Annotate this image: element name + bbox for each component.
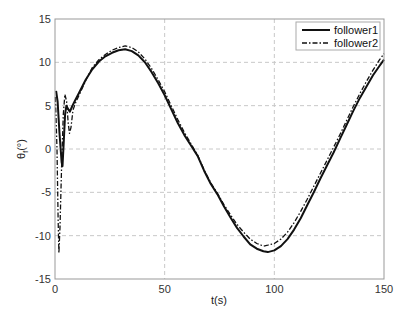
y-tick-label: -15: [35, 273, 51, 285]
x-tick-label: 50: [159, 283, 171, 295]
legend-label-follower1: follower1: [334, 24, 378, 36]
y-tick-label: -5: [41, 186, 51, 198]
x-tick-label: 0: [52, 283, 58, 295]
y-tick-label: 5: [45, 100, 51, 112]
y-tick-label: 0: [45, 143, 51, 155]
x-tick-label: 150: [375, 283, 393, 295]
legend: follower1 follower2: [296, 22, 380, 50]
y-axis-ticks: -15-10-5051015: [35, 13, 51, 285]
y-tick-label: 10: [39, 56, 51, 68]
x-tick-label: 100: [265, 283, 283, 295]
svg-text:θf(°): θf(°): [15, 139, 29, 159]
legend-label-follower2: follower2: [334, 37, 378, 49]
x-axis-label: t(s): [211, 294, 227, 306]
y-tick-label: 15: [39, 13, 51, 25]
y-axis-label: θf(°): [15, 139, 29, 159]
y-tick-label: -10: [35, 230, 51, 242]
line-chart: 050100150 -15-10-5051015 t(s) θf(°) foll…: [0, 0, 412, 319]
